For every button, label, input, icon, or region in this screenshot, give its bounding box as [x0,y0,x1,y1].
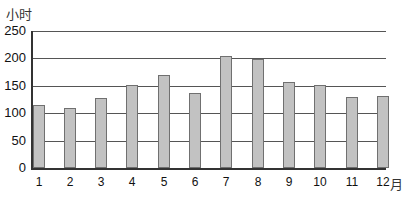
bar-month-10 [314,85,326,168]
gridline [32,141,386,142]
bar-month-4 [126,85,138,168]
y-tick-label: 50 [2,133,26,148]
bar-month-11 [346,97,358,168]
y-tick-label: 0 [2,160,26,175]
x-tick-label: 11 [342,175,362,189]
x-tick-label: 1 [29,175,49,189]
x-tick-label: 8 [248,175,268,189]
y-tick-label: 150 [2,78,26,93]
bar-month-12 [377,96,389,168]
y-tick-label: 200 [2,50,26,65]
x-tick-label: 7 [216,175,236,189]
gridline [32,31,386,32]
x-tick-label: 9 [279,175,299,189]
y-axis-label: 小时 [6,4,32,23]
bar-chart: 小时 月 050100150200250123456789101112 [0,0,408,201]
y-tick-label: 250 [2,23,26,38]
gridline [32,58,386,59]
bar-month-8 [252,59,264,168]
x-tick-label: 6 [185,175,205,189]
bar-month-2 [64,108,76,168]
y-axis-line [31,31,33,169]
x-tick-label: 3 [91,175,111,189]
x-tick-label: 2 [60,175,80,189]
bar-month-5 [158,75,170,168]
bar-month-6 [189,93,201,168]
x-axis-line [31,168,386,170]
gridline [32,113,386,114]
y-tick-label: 100 [2,105,26,120]
x-tick-label: 10 [310,175,330,189]
bar-month-7 [220,56,232,168]
x-tick-label: 5 [154,175,174,189]
gridline [32,86,386,87]
x-tick-label: 12 [373,175,393,189]
bar-month-1 [33,105,45,168]
bar-month-9 [283,82,295,168]
x-tick-label: 4 [122,175,142,189]
bar-month-3 [95,98,107,168]
